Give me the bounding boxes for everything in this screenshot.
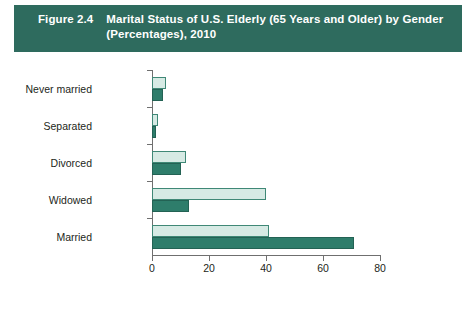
x-axis-tick-label: 40 bbox=[260, 262, 272, 274]
bar-women-divorced bbox=[152, 151, 186, 163]
bar-men-widowed bbox=[152, 200, 189, 212]
y-axis-tick bbox=[147, 107, 152, 108]
y-axis-tick bbox=[147, 181, 152, 182]
y-axis-category-label: Widowed bbox=[0, 194, 92, 206]
x-axis-tick bbox=[152, 256, 153, 261]
y-axis-category-label: Married bbox=[0, 231, 92, 243]
x-axis-tick bbox=[209, 256, 210, 261]
y-axis-category-label: Separated bbox=[0, 120, 92, 132]
figure-container: Figure 2.4 Marital Status of U.S. Elderl… bbox=[0, 0, 476, 313]
figure-header-band: Figure 2.4 Marital Status of U.S. Elderl… bbox=[14, 5, 462, 52]
x-axis-tick-label: 0 bbox=[149, 262, 155, 274]
y-axis-category-label: Never married bbox=[0, 83, 92, 95]
bar-men-divorced bbox=[152, 163, 181, 175]
x-axis-tick-label: 80 bbox=[374, 262, 386, 274]
y-axis-tick bbox=[147, 70, 152, 71]
bar-men-separated bbox=[152, 126, 156, 138]
y-axis-category-label: Divorced bbox=[0, 157, 92, 169]
x-axis-tick bbox=[323, 256, 324, 261]
figure-title: Marital Status of U.S. Elderly (65 Years… bbox=[106, 12, 443, 42]
x-axis-tick-label: 20 bbox=[203, 262, 215, 274]
y-axis-tick bbox=[147, 144, 152, 145]
figure-header-inner: Figure 2.4 Marital Status of U.S. Elderl… bbox=[38, 12, 452, 42]
bar-men-married bbox=[152, 237, 354, 249]
bar-women-widowed bbox=[152, 188, 266, 200]
figure-title-line-2: (Percentages), 2010 bbox=[106, 28, 216, 40]
figure-title-line-1: Marital Status of U.S. Elderly (65 Years… bbox=[106, 13, 443, 25]
chart-plot-area: Never marriedSeparatedDivorcedWidowedMar… bbox=[0, 52, 476, 313]
x-axis-tick bbox=[266, 256, 267, 261]
x-axis-tick-label: 60 bbox=[317, 262, 329, 274]
bar-women-never-married bbox=[152, 77, 166, 89]
x-axis-tick bbox=[380, 256, 381, 261]
bar-men-never-married bbox=[152, 89, 163, 101]
bar-women-separated bbox=[152, 114, 158, 126]
bar-women-married bbox=[152, 225, 269, 237]
y-axis-tick bbox=[147, 218, 152, 219]
figure-number: Figure 2.4 bbox=[38, 12, 93, 27]
